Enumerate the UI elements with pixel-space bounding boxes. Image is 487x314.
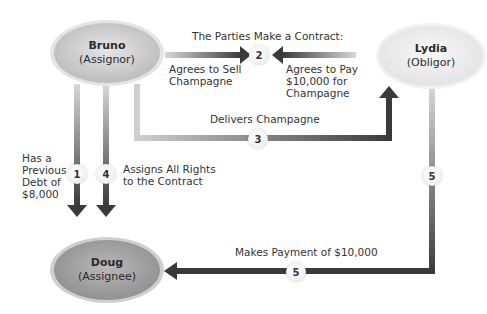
arrow-2-left xyxy=(165,46,251,64)
step-3-badge: 3 xyxy=(248,129,268,149)
step-5-vertical-badge: 5 xyxy=(422,166,442,186)
step-4-label: Assigns All Rights to the Contract xyxy=(123,163,216,187)
step-2-right-label: Agrees to Pay $10,000 for Champagne xyxy=(286,63,358,99)
label-line: Debt of xyxy=(22,176,66,188)
party-role: (Assignor) xyxy=(79,53,135,67)
label-line: Champagne xyxy=(169,75,242,87)
party-name: Bruno xyxy=(88,39,125,53)
label-line: Previous xyxy=(22,164,66,176)
diagram-title: The Parties Make a Contract: xyxy=(192,30,343,42)
step-3-label: Delivers Champagne xyxy=(210,113,320,125)
party-name: Lydia xyxy=(415,42,448,56)
label-line: Agrees to Sell xyxy=(169,63,242,75)
step-1-badge: 1 xyxy=(67,164,87,184)
step-5-label: Makes Payment of $10,000 xyxy=(235,246,378,258)
arrow-1 xyxy=(67,84,87,217)
label-line: $8,000 xyxy=(22,188,66,200)
arrow-4 xyxy=(96,84,116,217)
label-line: Agrees to Pay xyxy=(286,63,358,75)
party-name: Doug xyxy=(91,256,123,270)
party-role: (Assignee) xyxy=(78,270,136,284)
step-2-left-label: Agrees to Sell Champagne xyxy=(169,63,242,87)
label-line: Champagne xyxy=(286,87,358,99)
label-line: Has a xyxy=(22,152,66,164)
party-lydia: Lydia (Obligor) xyxy=(379,26,483,86)
step-4-badge: 4 xyxy=(96,164,116,184)
label-line: to the Contract xyxy=(123,175,216,187)
step-2-badge: 2 xyxy=(249,45,269,65)
label-line: Assigns All Rights xyxy=(123,163,216,175)
party-role: (Obligor) xyxy=(407,56,456,70)
step-5-badge: 5 xyxy=(286,262,306,282)
party-bruno: Bruno (Assignor) xyxy=(54,23,160,83)
label-line: $10,000 for xyxy=(286,75,358,87)
step-1-label: Has a Previous Debt of $8,000 xyxy=(22,152,66,200)
party-doug: Doug (Assignee) xyxy=(54,240,160,300)
arrow-2-right xyxy=(272,46,356,64)
